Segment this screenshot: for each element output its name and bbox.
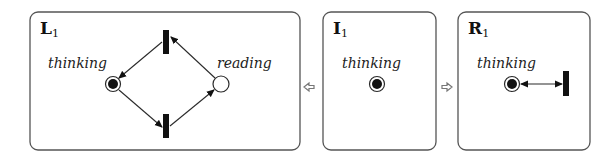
place-label-thinking: thinking (48, 55, 107, 71)
place-thinking (370, 77, 385, 92)
token (507, 79, 517, 89)
place-label-reading: reading (217, 55, 272, 71)
place-label-thinking: thinking (342, 55, 401, 71)
right-arrow-icon (442, 83, 452, 91)
place-label-thinking: thinking (477, 55, 536, 71)
right-panel: R1 thinking (458, 12, 590, 150)
left-arrow-icon (304, 83, 314, 91)
token (372, 79, 382, 89)
petri-net-rule-diagram: L1 thinking reading I1 thinking (0, 0, 614, 157)
token (108, 79, 118, 89)
place-reading (213, 76, 229, 92)
place-thinking (505, 77, 520, 92)
transition (563, 71, 569, 96)
place-thinking (106, 77, 121, 92)
transition-top (163, 30, 169, 54)
transition-bottom (163, 114, 169, 138)
initial-panel: I1 thinking (323, 12, 436, 150)
left-panel: L1 thinking reading (30, 12, 300, 150)
